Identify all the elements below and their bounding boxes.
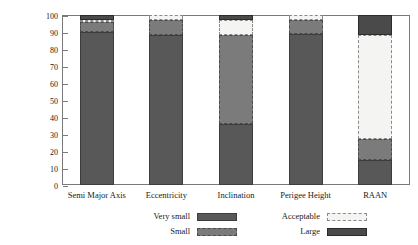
stacked-bar (219, 15, 253, 185)
legend-entry: Large (248, 225, 367, 238)
x-axis-tick-labels: Semi Major AxisEccentricityInclinationPe… (62, 188, 410, 204)
bar-segment (149, 35, 183, 185)
y-axis-tick-label: 10 (28, 163, 58, 176)
y-axis-tick-label: 90 (28, 27, 58, 40)
bar-segment (80, 20, 114, 22)
bar-segment (149, 15, 183, 20)
legend-swatch (327, 228, 367, 236)
bar-group (289, 15, 323, 185)
bar-segment (80, 15, 114, 20)
bar-segment (289, 15, 323, 20)
y-axis-tick-label: 30 (28, 129, 58, 142)
bars-layer (62, 15, 410, 185)
x-axis-tick-label: RAAN (340, 188, 410, 202)
bar-segment (219, 35, 253, 123)
bar-segment (219, 20, 253, 35)
y-axis-title: Deviating Objects [per cent] (14, 0, 28, 30)
legend-entry: Small (118, 225, 237, 238)
stacked-bar (149, 15, 183, 185)
bar-segment (219, 124, 253, 185)
legend-label: Acceptable (248, 210, 327, 223)
x-axis-tick-label: Eccentricity (132, 188, 202, 202)
bar-segment (358, 160, 392, 186)
bar-segment (219, 15, 253, 20)
legend-label: Large (248, 225, 327, 238)
bar-segment (358, 139, 392, 159)
y-axis-tick-label: 20 (28, 146, 58, 159)
y-axis-tick-label: 60 (28, 78, 58, 91)
stacked-bar (80, 15, 114, 185)
legend-column-right: AcceptableLarge (248, 210, 367, 240)
legend-label: Very small (118, 210, 197, 223)
stacked-bar (358, 15, 392, 185)
bar-segment (80, 22, 114, 32)
legend-label: Small (118, 225, 197, 238)
x-axis-tick-label: Perigee Height (271, 188, 341, 202)
y-axis-tick-label: 70 (28, 61, 58, 74)
bar-segment (149, 20, 183, 35)
legend-column-left: Very smallSmall (118, 210, 237, 240)
bar-segment (358, 35, 392, 139)
bar-group (219, 15, 253, 185)
y-axis-tick-mark (63, 186, 68, 187)
x-axis-tick-label: Semi Major Axis (62, 188, 132, 202)
stacked-bar-chart: Deviating Objects [per cent] 01020304050… (0, 0, 418, 245)
legend-swatch (197, 213, 237, 221)
stacked-bar (289, 15, 323, 185)
y-axis-tick-label: 100 (28, 10, 58, 23)
bar-segment (80, 32, 114, 185)
bar-segment (289, 34, 323, 185)
legend-swatch (327, 213, 367, 221)
legend-entry: Very small (118, 210, 237, 223)
y-axis-tick-label: 0 (28, 180, 58, 193)
y-axis-tick-label: 40 (28, 112, 58, 125)
legend-swatch (197, 228, 237, 236)
bar-segment (289, 20, 323, 34)
y-axis-tick-label: 50 (28, 95, 58, 108)
chart-legend: Very smallSmall AcceptableLarge (0, 210, 418, 240)
bar-group (149, 15, 183, 185)
bar-group (80, 15, 114, 185)
bar-group (358, 15, 392, 185)
x-axis-tick-label: Inclination (201, 188, 271, 202)
legend-entry: Acceptable (248, 210, 367, 223)
bar-segment (358, 15, 392, 35)
y-axis-tick-label: 80 (28, 44, 58, 57)
